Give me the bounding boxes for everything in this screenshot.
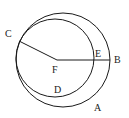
point-label-A: A — [94, 102, 102, 113]
geometry-diagram: C F E B D A — [0, 0, 129, 118]
point-label-D: D — [54, 84, 61, 95]
point-label-C: C — [5, 28, 12, 39]
point-label-E: E — [95, 48, 101, 59]
point-label-F: F — [52, 64, 58, 75]
point-label-B: B — [114, 54, 121, 65]
segment-FC — [19, 41, 57, 60]
